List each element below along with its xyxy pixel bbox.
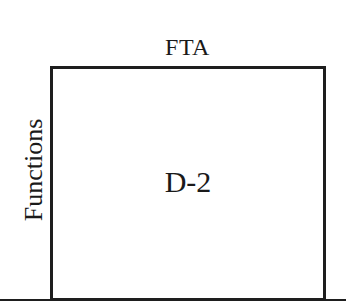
column-axis-label: FTA [50,34,325,60]
baseline-rule [0,299,346,301]
row-axis-label: Functions [21,119,47,222]
matrix-box: D-2 [50,66,326,301]
box-label: D-2 [53,165,323,199]
